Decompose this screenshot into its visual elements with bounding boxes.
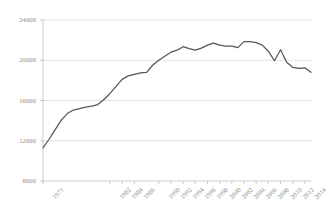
y-axis-tick-label: 12000 <box>6 137 36 144</box>
y-axis-tick-label: 20000 <box>6 56 36 63</box>
y-axis-tick-label: 16000 <box>6 97 36 104</box>
y-axis-tick-label: 8000 <box>6 177 36 184</box>
data-series-line <box>43 42 311 148</box>
y-axis-tick-label: 24000 <box>6 16 36 23</box>
